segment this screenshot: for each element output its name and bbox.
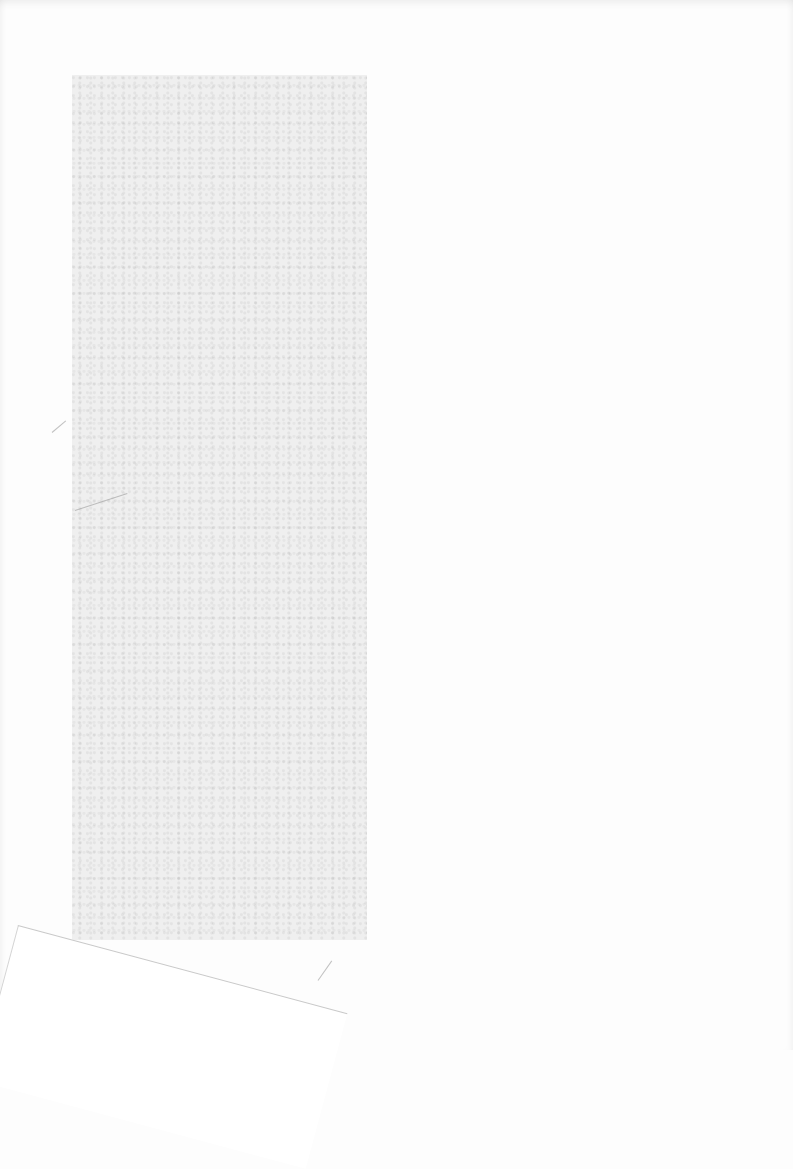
gray-scanned-block xyxy=(72,75,367,940)
